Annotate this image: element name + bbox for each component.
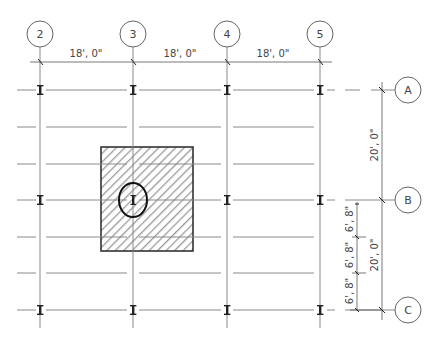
grid-bubble-3: 3 (130, 28, 137, 41)
subdim-3: 6', 8" (344, 278, 355, 304)
dim-2-3: 18', 0" (70, 48, 103, 59)
dim-3-4: 18', 0" (164, 48, 197, 59)
framing-plan: 18', 0" 18', 0" 18', 0" 20', 0" 20', 0" … (0, 0, 441, 348)
dim-B-C: 20', 0" (369, 239, 380, 272)
grid-bubble-B: B (404, 194, 412, 207)
column-bubbles: 2 3 4 5 (27, 21, 333, 47)
grid-bubble-2: 2 (37, 28, 44, 41)
grid-bubble-A: A (404, 84, 412, 97)
dim-4-5: 18', 0" (257, 48, 290, 59)
grid-bubble-4: 4 (224, 28, 231, 41)
vertical-dimension: 20', 0" 20', 0" (369, 82, 385, 320)
grid-bubble-5: 5 (317, 28, 324, 41)
row-bubbles: A B C (395, 77, 421, 323)
horizontal-dimension: 18', 0" 18', 0" 18', 0" (30, 48, 332, 65)
row-grid-lines (17, 90, 395, 310)
dim-A-B: 20', 0" (369, 129, 380, 162)
subdim-1: 6', 8" (344, 206, 355, 232)
grid-bubble-C: C (404, 304, 412, 317)
subdim-2: 6', 8" (344, 242, 355, 268)
